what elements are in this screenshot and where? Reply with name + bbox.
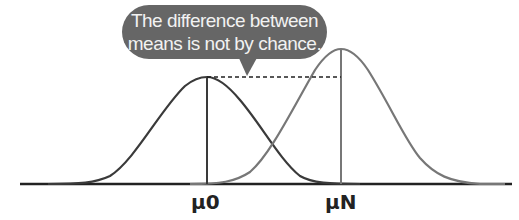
- null-distribution-curve: [48, 77, 360, 184]
- callout-pointer: [238, 56, 258, 76]
- callout-line-1: The difference between: [122, 9, 327, 32]
- mu-n-label: μN: [325, 190, 356, 214]
- mu-0-label: μ0: [191, 190, 220, 214]
- diagram: The difference between means is not by c…: [0, 0, 519, 220]
- callout-bubble: The difference between means is not by c…: [122, 5, 327, 59]
- new-distribution-curve: [190, 49, 505, 184]
- callout-line-2: means is not by chance.: [122, 32, 327, 55]
